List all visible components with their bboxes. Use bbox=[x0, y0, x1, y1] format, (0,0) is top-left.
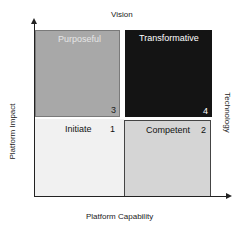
y-axis-line bbox=[34, 22, 35, 197]
quadrant-number: 3 bbox=[111, 105, 116, 115]
quadrant-purposeful: Purposeful 3 bbox=[35, 30, 120, 117]
x-axis-arrow-icon bbox=[226, 193, 232, 199]
y-axis-arrow-icon bbox=[31, 18, 37, 24]
platform-impact-label: Platform Impact bbox=[8, 103, 17, 159]
x-axis-line bbox=[34, 196, 227, 197]
quadrant-transformative: Transformative 4 bbox=[125, 30, 212, 117]
technology-label: Technology bbox=[223, 92, 232, 132]
platform-capability-label: Platform Capability bbox=[86, 212, 153, 221]
quadrant-label: Purposeful bbox=[58, 34, 101, 44]
quadrant-label: Competent bbox=[146, 125, 190, 135]
vision-label: Vision bbox=[111, 10, 133, 19]
quadrant-label: Initiate bbox=[65, 124, 92, 134]
quadrant-label: Transformative bbox=[139, 33, 199, 43]
quadrant-initiate: Initiate 1 bbox=[35, 119, 124, 196]
quadrant-competent: Competent 2 bbox=[124, 120, 211, 197]
quadrant-number: 1 bbox=[110, 124, 115, 134]
quadrant-number: 4 bbox=[203, 106, 208, 116]
quadrant-number: 2 bbox=[201, 125, 206, 135]
